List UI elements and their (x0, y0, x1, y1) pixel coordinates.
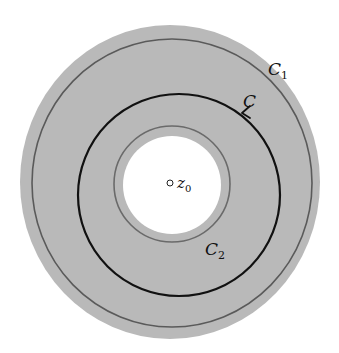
svg-text:C1: C1 (268, 59, 288, 82)
label-z0-sub: 0 (185, 183, 191, 194)
label-c2-sub: 2 (218, 249, 225, 262)
annulus-diagram: C1 C C2 z0 (0, 0, 339, 353)
label-c1-sub: 1 (281, 69, 288, 82)
label-c: C (243, 91, 256, 111)
label-c2: C (205, 239, 218, 259)
label-c1: C (268, 59, 281, 79)
label-z0: z (176, 174, 185, 192)
